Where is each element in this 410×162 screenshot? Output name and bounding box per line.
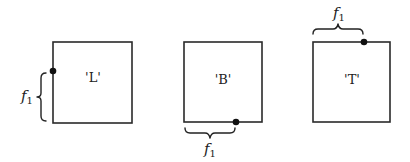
brace-left [37, 73, 46, 121]
brace-label-t: f1 [332, 4, 345, 23]
point-marker-l [50, 68, 57, 75]
panel-label-t: 'T' [344, 72, 360, 87]
panel-left: f1 'L' [20, 42, 132, 123]
point-marker-t [361, 39, 368, 46]
brace-top [313, 24, 363, 34]
brace-label-b: f1 [203, 140, 216, 159]
diagram-canvas: f1 'L' f1 'B' f1 'T' [0, 0, 410, 162]
panel-bottom: f1 'B' [184, 42, 262, 159]
point-marker-b [233, 119, 240, 126]
brace-bottom [185, 128, 235, 138]
diagram-svg: f1 'L' f1 'B' f1 'T' [0, 0, 410, 162]
panel-label-b: 'B' [215, 72, 232, 87]
brace-label-l: f1 [20, 87, 33, 106]
panel-top: f1 'T' [313, 4, 390, 122]
panel-label-l: 'L' [85, 70, 101, 85]
